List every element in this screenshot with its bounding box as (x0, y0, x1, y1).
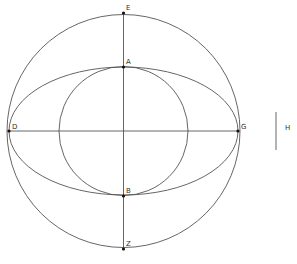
point-A-marker (122, 65, 125, 68)
point-D-marker (7, 129, 10, 132)
label-E: E (126, 4, 130, 12)
label-H: H (285, 124, 290, 132)
label-G: G (241, 123, 246, 131)
point-E-marker (122, 11, 125, 14)
label-B: B (126, 187, 131, 195)
point-G-marker (236, 129, 239, 132)
labeled-points: EADGBZ (7, 4, 246, 251)
label-D: D (12, 123, 17, 131)
point-Z-marker (122, 247, 125, 250)
label-Z: Z (126, 240, 131, 248)
label-A: A (126, 58, 131, 66)
geometry-diagram: EADGBZ H (0, 0, 297, 264)
point-B-marker (122, 194, 125, 197)
